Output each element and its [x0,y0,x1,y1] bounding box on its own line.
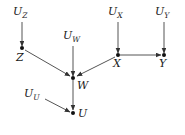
node-dot-u[interactable] [71,111,75,115]
node-label-u: U [78,108,87,119]
node-label-x: X [113,58,121,69]
noise-label-u-x: UX [108,6,123,17]
edge-u_u-to-u [45,99,70,112]
causal-diagram: ZWUXYUZUWUXUYUU [0,0,185,135]
node-dot-z[interactable] [20,46,24,50]
noise-label-u-y: UY [155,6,169,17]
noise-label-u-w: UW [63,30,80,41]
noise-label-u-u: UU [24,88,40,99]
nodes-group [20,46,166,115]
node-label-y: Y [159,58,166,69]
edge-x-to-w [77,57,115,76]
graph-canvas [0,0,185,135]
node-label-w: W [77,80,88,91]
node-dot-w[interactable] [71,76,75,80]
edge-z-to-w [25,50,70,76]
edges-group [22,22,164,112]
node-label-z: Z [16,52,24,63]
noise-label-u-z: UZ [13,6,28,17]
